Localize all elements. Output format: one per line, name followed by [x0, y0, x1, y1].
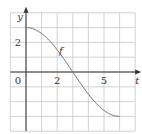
axes: [10, 7, 141, 131]
axis-labels: 2520tyf: [15, 11, 140, 86]
series-label-f: f: [58, 45, 65, 56]
x-axis-label: t: [135, 75, 140, 86]
y-tick-label: 2: [15, 37, 21, 48]
chart: 2520tyf: [0, 0, 142, 134]
x-tick-label: 2: [54, 75, 60, 86]
y-axis-arrow-icon: [24, 7, 29, 13]
x-axis-arrow-icon: [135, 70, 141, 75]
x-tick-label: 5: [101, 75, 107, 86]
origin-label: 0: [15, 75, 21, 86]
y-axis-label: y: [16, 11, 23, 22]
